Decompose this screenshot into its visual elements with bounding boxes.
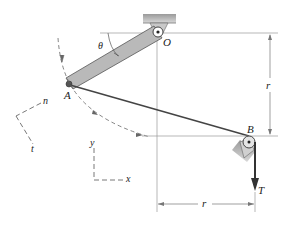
- label-y: y: [89, 137, 95, 148]
- label-r-vertical: r: [266, 79, 271, 91]
- label-A: A: [63, 89, 71, 101]
- label-t: t: [31, 143, 34, 154]
- pulley-support-B: [232, 136, 255, 162]
- label-O: O: [163, 36, 171, 48]
- xy-axes: [94, 148, 124, 180]
- nt-axes: [16, 103, 41, 144]
- label-T: T: [258, 184, 265, 196]
- label-theta: θ: [98, 40, 103, 51]
- dimension-horizontal-r: [158, 192, 255, 212]
- label-B: B: [247, 123, 254, 135]
- label-x: x: [125, 173, 131, 184]
- pin-O: [153, 27, 163, 37]
- diagram-canvas: O A B θ T r r n t x y: [0, 0, 284, 226]
- label-r-horizontal: r: [202, 197, 207, 209]
- rod-OA: [66, 26, 162, 89]
- label-n: n: [43, 95, 48, 106]
- cable-AB: [70, 85, 249, 136]
